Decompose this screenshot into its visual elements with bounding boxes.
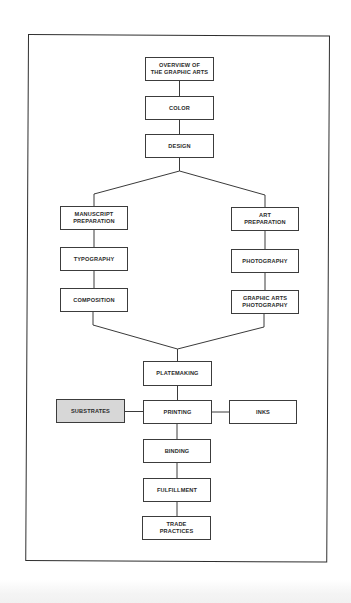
node-platemaking: PLATEMAKING: [143, 361, 212, 386]
node-label: INKS: [256, 409, 270, 416]
node-label: ART PREPARATION: [244, 212, 286, 226]
edge-split-manuscript: [94, 171, 180, 206]
node-composition: COMPOSITION: [60, 288, 128, 312]
node-design: DESIGN: [145, 134, 214, 158]
node-printing: PRINTING: [143, 400, 212, 424]
node-label: SUBSTRATES: [71, 408, 110, 415]
node-overview: OVERVIEW OF THE GRAPHIC ARTS: [145, 57, 214, 81]
node-typography: TYPOGRAPHY: [60, 247, 128, 271]
node-binding: BINDING: [143, 439, 211, 463]
node-color: COLOR: [145, 96, 214, 120]
node-fulfillment: FULFILLMENT: [143, 478, 211, 502]
edge-split-art: [180, 171, 266, 207]
node-label: TYPOGRAPHY: [74, 256, 115, 263]
node-label: COMPOSITION: [73, 297, 114, 304]
node-label: PLATEMAKING: [156, 370, 198, 377]
node-graphic-arts-photography: GRAPHIC ARTS PHOTOGRAPHY: [231, 290, 299, 314]
node-trade-practices: TRADE PRACTICES: [142, 516, 211, 540]
node-label: PHOTOGRAPHY: [242, 258, 287, 265]
node-art-preparation: ART PREPARATION: [231, 207, 299, 231]
edge-gaphoto-merge: [178, 314, 265, 349]
node-label: OVERVIEW OF THE GRAPHIC ARTS: [151, 62, 209, 76]
edge-composition-merge: [93, 312, 178, 349]
page: OVERVIEW OF THE GRAPHIC ARTS COLOR DESIG…: [0, 0, 351, 603]
node-label: TRADE PRACTICES: [160, 521, 194, 535]
node-label: FULFILLMENT: [157, 487, 197, 494]
node-label: BINDING: [165, 448, 190, 455]
node-manuscript-preparation: MANUSCRIPT PREPARATION: [60, 206, 128, 230]
node-label: DESIGN: [168, 143, 190, 150]
node-inks: INKS: [229, 400, 297, 424]
node-label: MANUSCRIPT PREPARATION: [73, 211, 115, 225]
node-photography: PHOTOGRAPHY: [231, 249, 299, 273]
node-label: COLOR: [169, 105, 190, 112]
node-label: GRAPHIC ARTS PHOTOGRAPHY: [242, 295, 287, 309]
node-substrates: SUBSTRATES: [56, 399, 125, 423]
node-label: PRINTING: [164, 409, 192, 416]
